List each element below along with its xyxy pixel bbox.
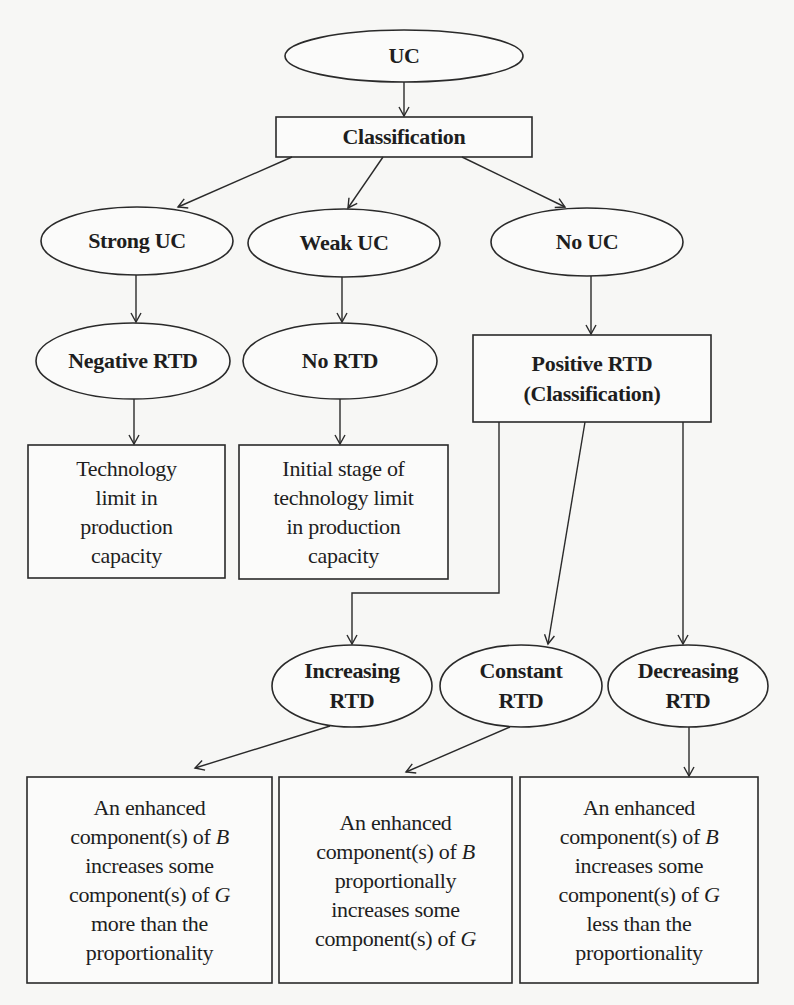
node-uc-label: UC — [388, 41, 419, 71]
node-decreasing-rtd-line1: Decreasing — [638, 656, 738, 686]
node-constant-desc-line4: increases some — [331, 895, 459, 924]
node-negative-rtd-label: Negative RTD — [68, 346, 197, 376]
node-technology-limit-line2: limit in — [96, 483, 158, 512]
node-constant-rtd: Constant RTD — [440, 645, 602, 727]
var-b: B — [462, 839, 475, 864]
node-decreasing-desc-line5: less than the — [587, 909, 692, 938]
node-constant-desc-line2: component(s) of B — [316, 837, 475, 866]
node-strong-uc: Strong UC — [41, 207, 233, 275]
node-technology-limit-line1: Technology — [76, 454, 177, 483]
edge-positive-rtd-constant-rtd — [548, 422, 585, 644]
node-increasing-desc-line2: component(s) of B — [70, 822, 229, 851]
node-no-rtd-label: No RTD — [302, 346, 378, 376]
edge-classification-no-uc — [462, 157, 565, 207]
edge-constant-rtd-desc — [406, 727, 510, 772]
node-no-rtd: No RTD — [243, 323, 437, 399]
node-decreasing-desc-line3: increases some — [575, 851, 703, 880]
node-increasing-rtd-line2: RTD — [330, 686, 375, 716]
node-classification-label: Classification — [343, 122, 466, 152]
node-constant-rtd-line2: RTD — [499, 686, 544, 716]
node-increasing-desc-line3: increases some — [85, 851, 213, 880]
node-increasing-rtd: Increasing RTD — [272, 645, 432, 727]
node-technology-limit-line4: capacity — [91, 541, 162, 570]
node-decreasing-desc-line1: An enhanced — [583, 793, 695, 822]
node-positive-rtd: Positive RTD (Classification) — [473, 335, 711, 422]
var-b: B — [705, 824, 718, 849]
node-decreasing-rtd: Decreasing RTD — [608, 645, 768, 727]
edge-increasing-rtd-desc — [195, 726, 330, 768]
node-decreasing-rtd-line2: RTD — [666, 686, 711, 716]
node-strong-uc-label: Strong UC — [88, 226, 186, 256]
var-g: G — [214, 882, 230, 907]
node-technology-limit-line3: production — [80, 512, 172, 541]
var-g: G — [704, 882, 720, 907]
node-increasing-desc-line4: component(s) of G — [69, 880, 230, 909]
node-increasing-rtd-line1: Increasing — [304, 656, 400, 686]
node-weak-uc: Weak UC — [248, 209, 440, 277]
node-initial-stage-line2: technology limit — [273, 483, 413, 512]
node-initial-stage-line4: capacity — [308, 541, 379, 570]
node-increasing-desc: An enhanced component(s) of B increases … — [27, 777, 272, 983]
node-uc: UC — [285, 30, 523, 82]
edge-classification-strong-uc — [178, 157, 292, 207]
node-initial-stage: Initial stage of technology limit in pro… — [239, 445, 448, 579]
node-decreasing-desc-line4: component(s) of G — [558, 880, 719, 909]
node-decreasing-desc-line2: component(s) of B — [560, 822, 719, 851]
node-weak-uc-label: Weak UC — [300, 228, 389, 258]
node-constant-desc-line1: An enhanced — [339, 808, 451, 837]
edge-classification-weak-uc — [348, 157, 383, 208]
node-no-uc-label: No UC — [556, 227, 619, 257]
var-b: B — [216, 824, 229, 849]
var-g: G — [460, 926, 476, 951]
node-initial-stage-line1: Initial stage of — [282, 454, 404, 483]
node-increasing-desc-line6: proportionality — [86, 938, 213, 967]
node-decreasing-desc: An enhanced component(s) of B increases … — [520, 777, 758, 983]
node-initial-stage-line3: in production — [286, 512, 400, 541]
node-constant-desc: An enhanced component(s) of B proportion… — [279, 777, 512, 983]
node-constant-desc-line5: component(s) of G — [315, 924, 476, 953]
node-classification: Classification — [276, 117, 532, 157]
node-negative-rtd: Negative RTD — [36, 323, 230, 399]
node-no-uc: No UC — [491, 208, 683, 276]
node-constant-desc-line3: proportionally — [335, 866, 457, 895]
node-increasing-desc-line5: more than the — [91, 909, 208, 938]
node-positive-rtd-label-line2: (Classification) — [524, 379, 661, 409]
node-technology-limit: Technology limit in production capacity — [28, 445, 225, 578]
node-decreasing-desc-line6: proportionality — [575, 938, 702, 967]
node-positive-rtd-label-line1: Positive RTD — [532, 349, 653, 379]
node-constant-rtd-line1: Constant — [479, 656, 562, 686]
node-increasing-desc-line1: An enhanced — [93, 793, 205, 822]
